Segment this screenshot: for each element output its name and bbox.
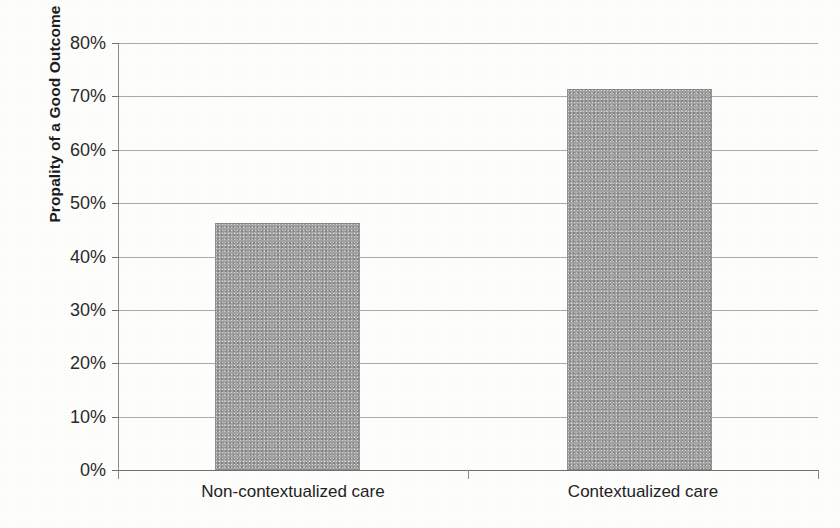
x-axis-tick-mark [118,470,119,479]
x-axis-tick-mark [818,470,819,479]
y-axis-tick-label: 0% [38,460,106,481]
x-axis-tick-label: Non-contextualized care [201,482,384,502]
gridline [118,150,818,151]
y-axis-tick-label: 20% [38,353,106,374]
y-axis-tick-label: 70% [38,86,106,107]
y-axis-tick-mark [112,363,119,364]
bar [215,223,360,470]
y-axis-tick-label: 30% [38,299,106,320]
y-axis-tick-mark [112,150,119,151]
y-axis-tick-mark [112,203,119,204]
y-axis-tick-label: 80% [38,33,106,54]
y-axis-tick-label: 60% [38,139,106,160]
chart-figure: Propality of a Good Outcome 80%70%60%50%… [0,0,840,528]
x-axis-tick-labels: Non-contextualized careContextualized ca… [118,482,818,512]
gridline [118,203,818,204]
gridline [118,43,818,44]
x-axis-tick-marks [118,470,819,480]
y-axis-tick-label: 40% [38,246,106,267]
plot-area [118,43,818,470]
y-axis-tick-label: 10% [38,406,106,427]
y-axis-tick-label: 50% [38,193,106,214]
y-axis-tick-mark [112,96,119,97]
y-axis-tick-mark [112,43,119,44]
y-axis-tick-mark [112,310,119,311]
bar [567,89,712,470]
x-axis-tick-label: Contextualized care [568,482,718,502]
y-axis-tick-mark [112,417,119,418]
x-axis-tick-mark [468,470,469,479]
gridline [118,96,818,97]
y-axis-tick-labels: 80%70%60%50%40%30%20%10%0% [38,0,106,528]
y-axis-tick-mark [112,257,119,258]
